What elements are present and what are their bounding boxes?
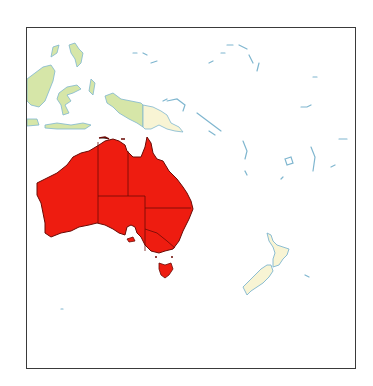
- map-frame: [26, 27, 356, 369]
- west-new-guinea-landmass: [105, 93, 143, 127]
- sulawesi-landmass: [57, 85, 81, 115]
- borneo-landmass: [27, 65, 55, 107]
- oceania-map: [27, 28, 356, 369]
- kangaroo-island: [127, 237, 135, 242]
- tasmania: [159, 263, 173, 278]
- australia: [37, 137, 193, 278]
- lesser-sunda-islands: [27, 119, 91, 129]
- halmahera-landmass: [69, 43, 83, 67]
- new-zealand-south-island: [243, 265, 273, 295]
- papua-new-guinea-landmass: [143, 105, 183, 132]
- australia-mainland: [37, 137, 193, 253]
- northern-islands: [99, 137, 125, 139]
- new-zealand-north-island: [267, 233, 289, 267]
